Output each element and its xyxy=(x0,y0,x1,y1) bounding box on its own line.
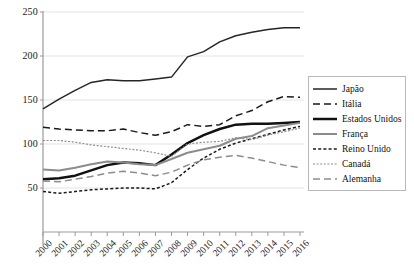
line-chart: 50100150200250 2000200120022003200420052… xyxy=(0,0,414,276)
legend-label: Estados Unidos xyxy=(342,114,401,124)
legend-item-frança[interactable]: França xyxy=(312,126,402,141)
legend-label: Japão xyxy=(342,84,364,94)
legend-swatch-icon xyxy=(312,129,338,139)
legend-label: França xyxy=(342,129,368,139)
y-tick-label: 250 xyxy=(12,6,38,17)
legend-swatch-icon xyxy=(312,144,338,154)
legend-swatch-icon xyxy=(312,99,338,109)
legend-swatch-icon xyxy=(312,159,338,169)
legend-item-estados-unidos[interactable]: Estados Unidos xyxy=(312,111,402,126)
legend-label: Canadá xyxy=(342,159,371,169)
legend-swatch-icon xyxy=(312,114,338,124)
legend-item-alemanha[interactable]: Alemanha xyxy=(312,171,402,186)
series-line-itália xyxy=(43,96,300,135)
legend-swatch-icon xyxy=(312,84,338,94)
legend-item-canadá[interactable]: Canadá xyxy=(312,156,402,171)
data-series xyxy=(43,28,300,193)
legend-label: Alemanha xyxy=(342,174,381,184)
y-tick-label: 150 xyxy=(12,94,38,105)
legend-label: Reino Unido xyxy=(342,144,391,154)
axes xyxy=(40,11,304,244)
legend-label: Itália xyxy=(342,99,362,109)
legend-swatch-icon xyxy=(312,174,338,184)
series-line-japão xyxy=(43,28,300,109)
x-axis-ticks xyxy=(43,232,300,236)
y-tick-label: 200 xyxy=(12,50,38,61)
chart-legend: JapãoItáliaEstados UnidosFrançaReino Uni… xyxy=(308,76,406,191)
y-tick-label: 100 xyxy=(12,138,38,149)
legend-item-reino-unido[interactable]: Reino Unido xyxy=(312,141,402,156)
y-tick-label: 50 xyxy=(12,182,38,193)
legend-item-japão[interactable]: Japão xyxy=(312,81,402,96)
legend-item-itália[interactable]: Itália xyxy=(312,96,402,111)
